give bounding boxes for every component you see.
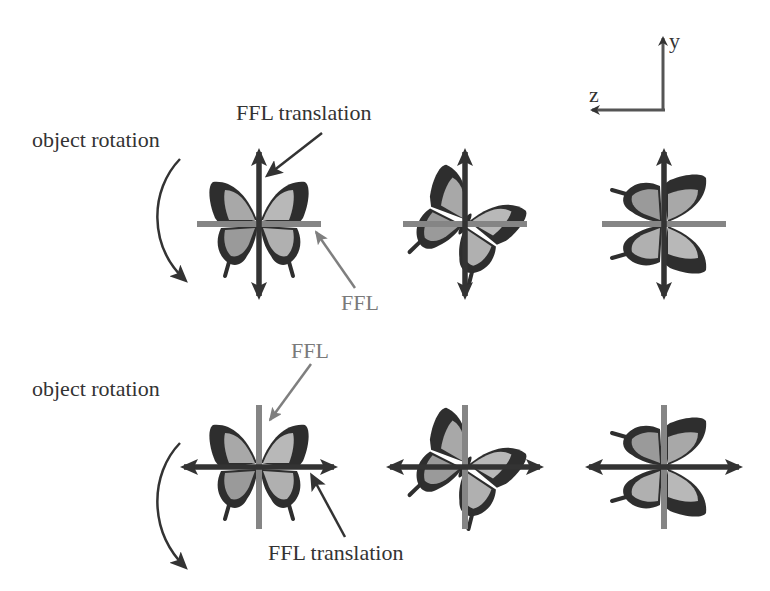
pointer-translation-top bbox=[268, 133, 322, 175]
pointer-ffl-bottom bbox=[270, 364, 311, 420]
ffl-label-bottom: FFL bbox=[291, 338, 329, 364]
rotation-label-bottom: object rotation bbox=[32, 376, 160, 402]
axis-indicator bbox=[592, 38, 665, 110]
butterfly-top-45deg bbox=[396, 152, 529, 296]
translation-label-bottom: FFL translation bbox=[268, 540, 403, 566]
butterfly-top-0deg bbox=[197, 152, 321, 296]
rotation-label-top: object rotation bbox=[32, 127, 160, 153]
butterfly-bottom-0deg bbox=[184, 405, 334, 529]
axis-y-label: y bbox=[669, 28, 680, 54]
butterfly-bottom-45deg bbox=[390, 405, 540, 537]
ffl-label-top: FFL bbox=[341, 290, 379, 316]
ffl-rotation-diagram bbox=[0, 0, 770, 591]
translation-label-top: FFL translation bbox=[236, 100, 371, 126]
butterfly-top-90deg bbox=[602, 152, 726, 296]
rotation-arrow-bottom bbox=[157, 443, 185, 567]
butterfly-bottom-90deg bbox=[589, 405, 739, 529]
rotation-arrow-top bbox=[157, 159, 185, 280]
pointer-ffl-top bbox=[316, 232, 355, 288]
pointer-translation-bottom bbox=[312, 476, 345, 537]
axis-z-label: z bbox=[589, 82, 599, 108]
